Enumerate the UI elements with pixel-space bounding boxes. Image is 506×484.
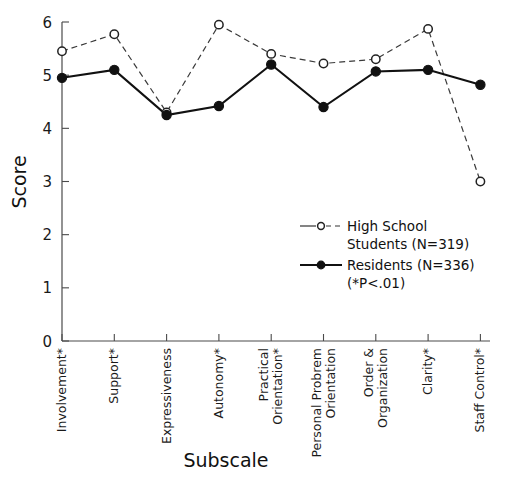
x-category-label: Practical bbox=[256, 348, 271, 401]
x-category-label: Orientation bbox=[323, 348, 338, 419]
y-axis-ticks: 6543210 bbox=[42, 14, 69, 351]
x-category-label: Clarity* bbox=[420, 348, 435, 395]
y-axis-title: Score bbox=[8, 155, 30, 208]
legend-label-high-school-line2: Students (N=319) bbox=[347, 236, 469, 252]
data-point bbox=[110, 65, 119, 74]
data-point bbox=[57, 73, 66, 82]
data-point bbox=[267, 60, 276, 69]
legend-sample-residents bbox=[300, 261, 342, 269]
y-tick-label: 6 bbox=[42, 14, 52, 32]
x-axis-ticks bbox=[62, 334, 480, 341]
data-point bbox=[424, 65, 433, 74]
x-category-label: Orientation* bbox=[270, 348, 285, 425]
y-tick-label: 3 bbox=[42, 173, 52, 191]
data-point bbox=[215, 20, 223, 28]
series-residents-markers bbox=[57, 60, 485, 120]
y-tick-label: 4 bbox=[42, 120, 52, 138]
data-point bbox=[476, 177, 484, 185]
data-point bbox=[58, 47, 66, 55]
x-axis-category-labels: Involvement*Support*ExpressivenessAutono… bbox=[54, 348, 487, 458]
data-point bbox=[424, 25, 432, 33]
line-chart: Score 6543210 Involvement*Support*Expres… bbox=[0, 0, 506, 484]
data-point bbox=[267, 50, 275, 58]
legend-sample-high-school-students bbox=[300, 223, 342, 230]
data-point bbox=[476, 80, 485, 89]
x-axis-title: Subscale bbox=[183, 449, 268, 471]
x-category-label: Autonomy* bbox=[211, 348, 226, 418]
x-category-label: Order & bbox=[361, 348, 376, 397]
series-high-school-students-markers bbox=[58, 20, 485, 185]
legend-label-high-school-line1: High School bbox=[347, 218, 427, 234]
x-category-label: Involvement* bbox=[54, 348, 69, 432]
data-point bbox=[214, 101, 223, 110]
chart-legend: High School Students (N=319) Residents (… bbox=[300, 218, 475, 291]
data-point bbox=[371, 67, 380, 76]
y-tick-label: 5 bbox=[42, 67, 52, 85]
y-tick-label: 2 bbox=[42, 226, 52, 244]
data-point bbox=[110, 30, 118, 38]
legend-label-residents-line1: Residents (N=336) bbox=[347, 257, 475, 273]
x-category-label: Personal Probrem bbox=[309, 348, 324, 458]
y-tick-label: 1 bbox=[42, 279, 52, 297]
data-point bbox=[319, 102, 328, 111]
y-tick-label: 0 bbox=[42, 333, 52, 351]
x-category-label: Support* bbox=[106, 348, 121, 404]
chart-figure: Score 6543210 Involvement*Support*Expres… bbox=[0, 0, 506, 484]
data-point bbox=[372, 55, 380, 63]
series-high-school-students-line bbox=[62, 25, 480, 182]
data-point bbox=[162, 110, 171, 119]
data-point bbox=[319, 59, 327, 67]
x-category-label: Expressiveness bbox=[159, 348, 174, 444]
x-category-label: Staff Control* bbox=[472, 348, 487, 433]
series-residents-line bbox=[62, 65, 480, 116]
legend-label-residents-line2: (*P<.01) bbox=[347, 275, 405, 291]
x-category-label: Organization bbox=[375, 348, 390, 428]
